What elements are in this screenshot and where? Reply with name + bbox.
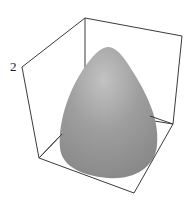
plot-canvas: 2 [0, 0, 195, 209]
paraboloid-surface [60, 47, 158, 178]
z-tick-label: 2 [10, 59, 17, 74]
plot-3d: 2 [0, 0, 195, 209]
